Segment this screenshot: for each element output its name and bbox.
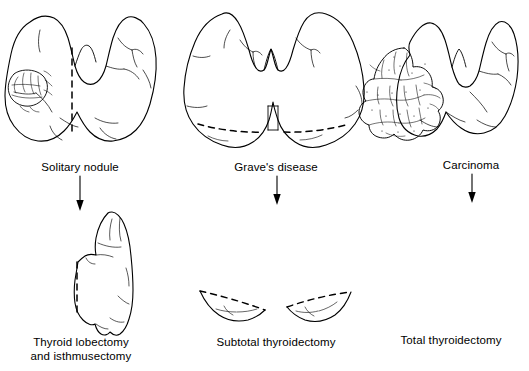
procedure-label-lobectomy-line1: Thyroid lobectomy xyxy=(33,335,129,349)
condition-label-solitary-nodule: Solitary nodule xyxy=(41,160,119,174)
condition-label-carcinoma: Carcinoma xyxy=(443,158,500,172)
specimen-subtotal-remnants xyxy=(200,291,351,321)
arrow-graves-disease xyxy=(273,176,280,205)
procedure-label-subtotal-thyroidectomy: Subtotal thyroidectomy xyxy=(216,335,335,349)
thyroid-surgery-figure: Solitary nodule Grave's disease Carcinom… xyxy=(0,0,529,371)
isthmus-notch xyxy=(75,45,96,66)
specimen-graves-disease xyxy=(184,13,364,148)
illustration-layer xyxy=(0,0,529,371)
procedure-label-total-thyroidectomy: Total thyroidectomy xyxy=(401,333,502,347)
condition-label-graves-disease: Grave's disease xyxy=(234,160,318,174)
arrow-carcinoma xyxy=(468,174,475,203)
procedure-label-lobectomy-line2: and isthmusectomy xyxy=(31,349,132,363)
carcinoma-tumor-mass xyxy=(359,48,443,140)
gland-outline xyxy=(5,16,156,141)
remnant-right-outline xyxy=(287,292,351,321)
solitary-nodule-mass xyxy=(8,70,52,112)
resection-line-dashed-right xyxy=(284,124,349,132)
specimen-carcinoma xyxy=(359,22,518,141)
resection-line-dashed-left xyxy=(198,124,263,132)
specimen-solitary-nodule xyxy=(5,16,156,141)
arrow-solitary-nodule xyxy=(76,176,83,211)
specimen-lobectomy-remnant xyxy=(74,212,133,335)
remnant-right-dashed-edge xyxy=(287,292,351,307)
lobe-outline xyxy=(74,212,133,335)
